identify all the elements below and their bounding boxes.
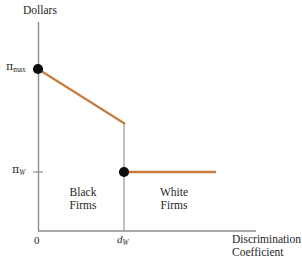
dw-subscript: W [123, 239, 129, 247]
x-axis-title: Discrimination Coefficient [232, 233, 301, 258]
white-firms-line1: White [148, 186, 200, 199]
chart-plot-area [0, 0, 302, 258]
y-axis-title: Dollars [23, 4, 57, 16]
pi-max-point-marker [33, 64, 43, 74]
white-firms-line2: Firms [148, 199, 200, 212]
y-tick-label-pi-w: πW [12, 164, 25, 176]
x-tick-label-origin: 0 [34, 235, 40, 247]
white-firms-region-label: White Firms [148, 186, 200, 212]
x-axis-title-line1: Discrimination [232, 233, 301, 246]
black-firms-line1: Black [58, 186, 108, 199]
black-firms-curve [38, 69, 125, 124]
pi-w-point-marker [119, 167, 129, 177]
discrimination-coefficient-chart: Dollars Discrimination Coefficient πmax … [0, 0, 302, 258]
x-tick-label-dw: dW [117, 234, 129, 246]
pi-max-subscript: max [13, 66, 25, 74]
black-firms-line2: Firms [58, 199, 108, 212]
x-axis-title-line2: Coefficient [232, 246, 301, 258]
y-tick-label-pi-max: πmax [6, 61, 26, 73]
pi-w-subscript: W [19, 169, 25, 177]
black-firms-region-label: Black Firms [58, 186, 108, 212]
d-symbol: d [117, 233, 123, 245]
